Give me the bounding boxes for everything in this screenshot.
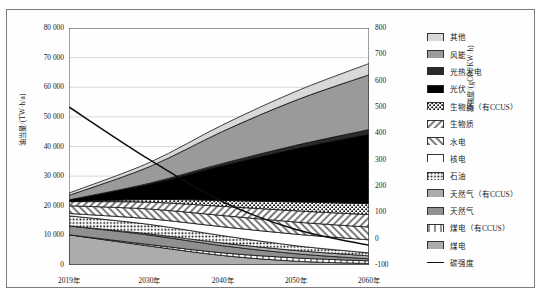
legend-label: 生物质（有CCUS） [450,101,518,112]
legend-item-wind[interactable]: 风能 [427,45,535,62]
legend-item-biomass[interactable]: 生物质 [427,115,535,132]
y-left-tick: 50 000 [18,112,64,121]
legend-swatch-line-icon [427,259,444,267]
area-layers [69,64,369,265]
stacked-area-chart [69,28,369,265]
legend-swatch-biomass-ccus-icon [427,102,444,110]
legend-item-coal[interactable]: 煤电 [427,237,535,254]
legend-label: 天然气 [450,205,474,216]
legend-label: 其他 [450,31,466,42]
y-right-tick: 300 [375,155,386,164]
legend-label: 碳强度 [450,257,474,268]
legend: 其他风能光热发电光伏生物质（有CCUS）生物质水电核电石油天然气（有CCUS）天… [427,28,535,271]
legend-swatch-pv-icon [427,85,444,93]
legend-item-gas[interactable]: 天然气 [427,202,535,219]
legend-label: 煤电（有CCUS） [450,222,510,233]
y-right-tick: 600 [375,76,386,85]
y-left-tick: 10 000 [18,230,64,239]
y-right-tick: -100 [375,260,389,269]
legend-swatch-other-icon [427,33,444,41]
legend-item-nuclear[interactable]: 核电 [427,150,535,167]
y-right-tick: 500 [375,102,386,111]
y-left-tick: 40 000 [18,142,64,151]
legend-label: 光热发电 [450,66,482,77]
legend-swatch-csp-icon [427,67,444,75]
legend-swatch-gas-ccus-icon [427,189,444,197]
legend-swatch-coal-ccus-icon [427,224,444,232]
legend-item-csp[interactable]: 光热发电 [427,63,535,80]
legend-item-coal-ccus[interactable]: 煤电（有CCUS） [427,219,535,236]
legend-label: 核电 [450,153,466,164]
y-left-tick: 30 000 [18,171,64,180]
y-left-tick: 60 000 [18,82,64,91]
legend-item-gas-ccus[interactable]: 天然气（有CCUS） [427,185,535,202]
x-tick: 2040年 [212,274,234,285]
legend-swatch-gas-icon [427,207,444,215]
y-left-tick: 70 000 [18,53,64,62]
legend-swatch-biomass-icon [427,120,444,128]
y-right-tick: 700 [375,49,386,58]
y-right-tick: 0 [375,234,379,243]
x-tick: 2060年 [358,274,380,285]
legend-item-carbon-intensity[interactable]: 碳强度 [427,254,535,271]
x-tick: 2030年 [139,274,161,285]
legend-swatch-nuclear-icon [427,154,444,162]
y-right-tick: 100 [375,207,386,216]
y-right-tick: 200 [375,181,386,190]
legend-label: 生物质 [450,118,474,129]
legend-label: 光伏 [450,83,466,94]
legend-item-other[interactable]: 其他 [427,28,535,45]
legend-label: 风能 [450,49,466,60]
x-tick: 2019年 [58,274,80,285]
legend-item-oil[interactable]: 石油 [427,167,535,184]
legend-label: 煤电 [450,240,466,251]
legend-label: 石油 [450,170,466,181]
legend-item-pv[interactable]: 光伏 [427,80,535,97]
legend-swatch-coal-icon [427,241,444,249]
legend-swatch-wind-icon [427,50,444,58]
legend-label: 水电 [450,136,466,147]
legend-item-biomass-ccus[interactable]: 生物质（有CCUS） [427,98,535,115]
legend-swatch-hydro-icon [427,137,444,145]
y-right-tick: 400 [375,128,386,137]
legend-item-hydro[interactable]: 水电 [427,132,535,149]
y-left-tick: 80 000 [18,23,64,32]
x-tick: 2050年 [285,274,307,285]
y-right-tick: 800 [375,23,386,32]
y-left-tick: 0 [18,260,64,269]
legend-label: 天然气（有CCUS） [450,188,518,199]
plot-area: 油当量/(TW·h/a) 碳强度/(gCO₂/KW·h) [69,28,369,265]
y-left-tick: 20 000 [18,201,64,210]
figure-frame: 油当量/(TW·h/a) 碳强度/(gCO₂/KW·h) [6,9,535,288]
legend-swatch-oil-icon [427,172,444,180]
